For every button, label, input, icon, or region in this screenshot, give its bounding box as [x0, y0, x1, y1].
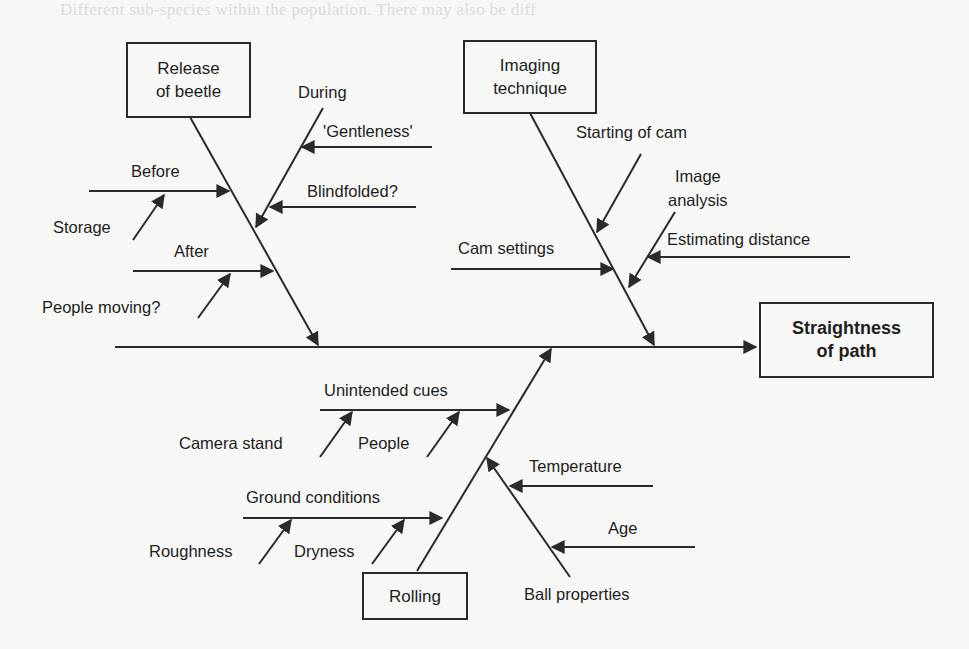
category-label: Rolling	[389, 585, 441, 608]
label-ground-conditions: Ground conditions	[246, 487, 380, 507]
arrow-people-moving	[198, 274, 230, 318]
label-dryness: Dryness	[294, 541, 355, 561]
arrow-during	[256, 108, 323, 227]
label-ball-properties: Ball properties	[524, 584, 629, 604]
label-cam-settings: Cam settings	[458, 238, 554, 258]
category-box-rolling: Rolling	[362, 572, 468, 620]
label-image-analysis-line: Image	[668, 164, 728, 188]
label-before: Before	[131, 161, 180, 181]
label-blindfolded: Blindfolded?	[307, 181, 398, 201]
category-label-line: of beetle	[156, 80, 221, 103]
label-during: During	[298, 82, 347, 102]
label-roughness: Roughness	[149, 541, 232, 561]
arrow-camera-stand	[320, 412, 352, 457]
arrow-storage	[133, 195, 164, 240]
arrow-image-analysis	[629, 212, 675, 287]
label-storage: Storage	[53, 217, 111, 237]
label-after: After	[174, 241, 209, 261]
label-camera-stand: Camera stand	[179, 433, 283, 453]
label-temperature: Temperature	[529, 456, 622, 476]
arrow-people	[427, 412, 459, 457]
label-people-moving: People moving?	[42, 297, 160, 317]
label-people: People	[358, 433, 409, 453]
label-image-analysis: Image analysis	[668, 164, 728, 212]
category-label-line: Imaging	[493, 54, 567, 77]
fishbone-diagram: Different sub-species within the populat…	[0, 0, 969, 649]
effect-label-line: Straightness	[792, 317, 901, 340]
label-age: Age	[608, 518, 637, 538]
label-image-analysis-line: analysis	[668, 188, 728, 212]
arrow-starting-of-cam	[597, 154, 641, 232]
effect-label-line: of path	[792, 340, 901, 363]
category-label-line: technique	[493, 77, 567, 100]
label-starting-of-cam: Starting of cam	[576, 122, 687, 142]
effect-box: Straightness of path	[759, 302, 934, 378]
arrow-dryness	[372, 520, 404, 564]
bone-imaging	[530, 113, 654, 345]
arrow-roughness	[259, 520, 291, 564]
category-box-release: Release of beetle	[126, 42, 251, 118]
label-estimating-distance: Estimating distance	[667, 229, 810, 249]
label-unintended-cues: Unintended cues	[324, 380, 448, 400]
category-label-line: Release	[156, 57, 221, 80]
label-gentleness: 'Gentleness'	[323, 121, 413, 141]
category-box-imaging: Imaging technique	[463, 40, 597, 114]
